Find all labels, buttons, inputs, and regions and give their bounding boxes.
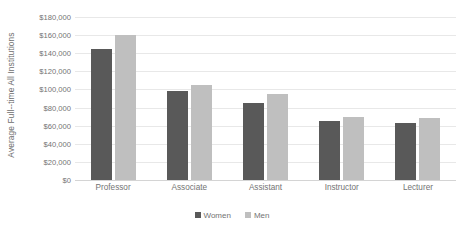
bar[interactable] — [267, 94, 288, 180]
plot-area — [75, 17, 456, 180]
y-tick-label: $20,000 — [20, 157, 71, 166]
legend-swatch-icon — [245, 212, 251, 218]
bar[interactable] — [319, 121, 340, 180]
legend-label: Men — [254, 211, 270, 220]
y-tick-label: $140,000 — [20, 49, 71, 58]
bars-layer — [75, 17, 456, 180]
y-tick-label: $60,000 — [20, 121, 71, 130]
axis-baseline — [75, 180, 456, 181]
y-tick-label: $120,000 — [20, 67, 71, 76]
y-tick-label: $40,000 — [20, 139, 71, 148]
x-tick-label: Lecturer — [380, 183, 456, 199]
bar[interactable] — [167, 91, 188, 180]
y-tick-label: $160,000 — [20, 31, 71, 40]
bar[interactable] — [91, 49, 112, 180]
bar[interactable] — [343, 117, 364, 180]
legend-label: Women — [204, 211, 231, 220]
bar-chart: Average Full--time All Institutions $180… — [0, 0, 464, 231]
bar-group — [304, 17, 380, 180]
bar-group — [227, 17, 303, 180]
legend-swatch-icon — [195, 212, 201, 218]
x-tick-label: Associate — [151, 183, 227, 199]
y-axis-tick-labels: $180,000$160,000$140,000$120,000$100,000… — [20, 10, 73, 184]
y-axis-title: Average Full--time All Institutions — [0, 0, 22, 190]
x-tick-label: Professor — [75, 183, 151, 199]
bar[interactable] — [115, 35, 136, 180]
x-axis-tick-labels: ProfessorAssociateAssistantInstructorLec… — [75, 183, 456, 199]
y-tick-label: $80,000 — [20, 103, 71, 112]
chart-legend: WomenMen — [0, 207, 464, 223]
legend-entry[interactable]: Women — [195, 211, 231, 220]
bar[interactable] — [419, 118, 440, 180]
y-tick-label: $0 — [20, 176, 71, 185]
x-tick-label: Instructor — [304, 183, 380, 199]
bar-group — [75, 17, 151, 180]
y-tick-label: $180,000 — [20, 13, 71, 22]
bar-group — [151, 17, 227, 180]
bar[interactable] — [395, 123, 416, 180]
bar-group — [380, 17, 456, 180]
x-tick-label: Assistant — [227, 183, 303, 199]
bar[interactable] — [191, 85, 212, 180]
y-axis-title-label: Average Full--time All Institutions — [6, 32, 16, 157]
legend-entry[interactable]: Men — [245, 211, 270, 220]
y-tick-label: $100,000 — [20, 85, 71, 94]
bar[interactable] — [243, 103, 264, 180]
